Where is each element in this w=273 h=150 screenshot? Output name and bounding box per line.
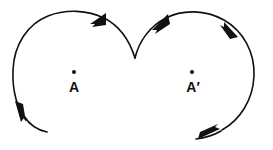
loop-diagram-svg: [0, 0, 273, 150]
arrow-upper-mid-icon: [152, 14, 170, 34]
figure-canvas: A A′: [0, 0, 273, 150]
point-label-A: A: [69, 80, 79, 94]
center-dot-A: [72, 70, 76, 74]
center-dot-A-prime: [190, 70, 194, 74]
arrow-top-right-icon: [220, 22, 238, 39]
point-label-A-prime: A′: [186, 80, 199, 94]
left-loop-tail-path: [24, 116, 47, 132]
left-loop-path: [13, 11, 135, 120]
